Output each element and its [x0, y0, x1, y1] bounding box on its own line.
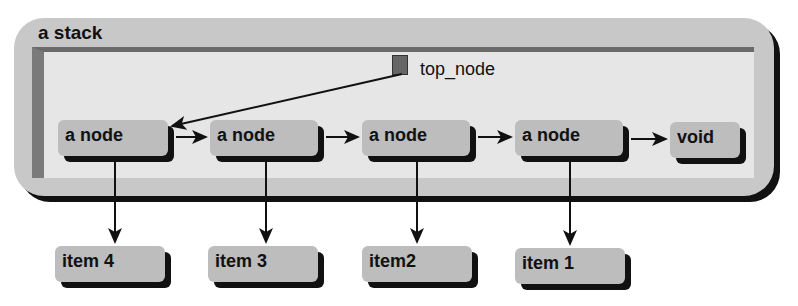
stack-container: a stack — [14, 18, 774, 196]
down-arrow-marker-icon — [392, 55, 408, 75]
item-box-1: item 1 — [515, 248, 625, 284]
node-box-4: a node — [515, 120, 623, 156]
node-box-2: a node — [210, 120, 318, 156]
item-box-3: item 3 — [208, 246, 318, 282]
item-box-4: item 4 — [55, 246, 165, 282]
item-box-2: item2 — [362, 246, 472, 282]
stack-title: a stack — [38, 22, 102, 44]
void-box: void — [670, 122, 740, 158]
node-box-3: a node — [362, 120, 470, 156]
node-box-1: a node — [58, 120, 168, 156]
top-node-label: top_node — [420, 59, 495, 80]
